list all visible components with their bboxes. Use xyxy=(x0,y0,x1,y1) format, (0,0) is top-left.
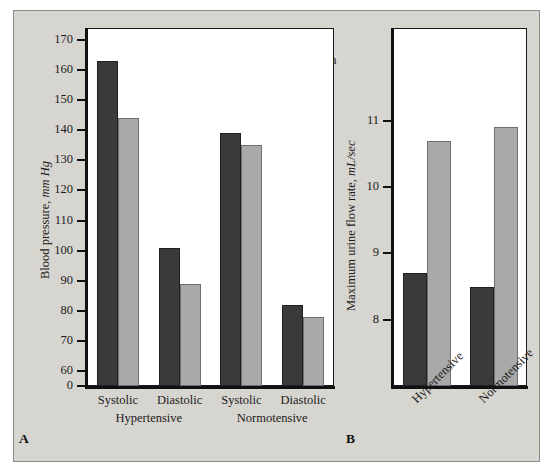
bar-doxazosin xyxy=(494,127,518,386)
y-axis-title-text: Maximum urine flow rate, xyxy=(344,176,358,311)
y-tick-label: 11 xyxy=(345,114,379,126)
bar-doxazosin xyxy=(427,141,451,386)
panel-b-y-axis xyxy=(391,28,394,388)
panel-b-letter: B xyxy=(346,431,355,447)
y-tick xyxy=(383,120,391,122)
y-tick xyxy=(383,252,391,254)
panel-b-y-axis-title: Maximum urine flow rate, mL/sec xyxy=(344,141,359,311)
bar-baseline xyxy=(470,287,494,386)
y-tick xyxy=(383,186,391,188)
panel-b: 891011 HypertensiveNormotensive Maximum … xyxy=(14,11,541,463)
y-tick-label: 8 xyxy=(345,313,379,325)
bar-baseline xyxy=(403,273,427,386)
y-axis-title-units: mL/sec xyxy=(344,141,358,176)
panel-b-x-axis xyxy=(391,386,528,389)
y-tick xyxy=(383,319,391,321)
figure-container: Baseline Doxazosin 607080901001101201301… xyxy=(13,10,540,462)
